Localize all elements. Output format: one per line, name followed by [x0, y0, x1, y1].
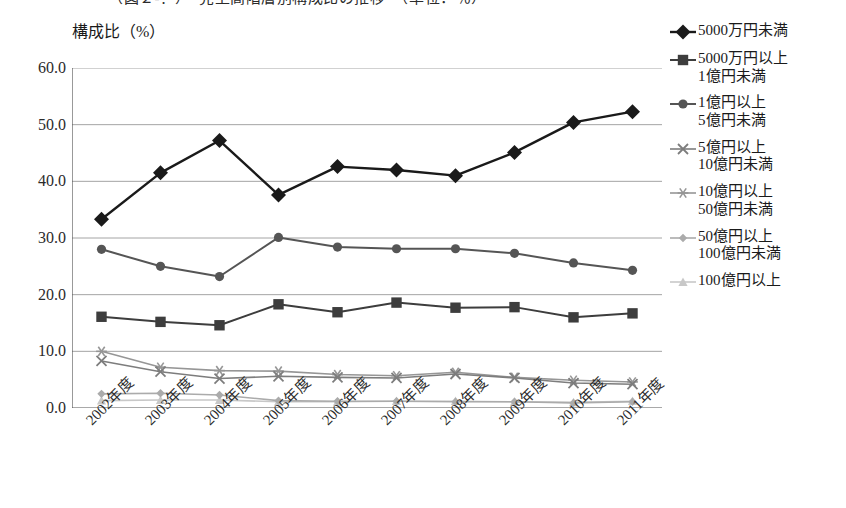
data-point-marker — [333, 242, 342, 251]
y-tick-label: 30.0 — [38, 229, 66, 247]
data-point-marker — [97, 245, 106, 254]
x-cross-icon — [668, 140, 698, 158]
data-point-marker — [214, 320, 224, 330]
legend-label: 5000万円未満 — [698, 22, 788, 40]
data-point-marker — [569, 258, 578, 267]
circle-icon — [668, 95, 698, 113]
x-axis-tick-labels: 2002年度2003年度2004年度2005年度2006年度2007年度2008… — [0, 408, 700, 508]
y-tick-label: 60.0 — [38, 59, 66, 77]
chart-page: （図２-？） 売上高階層別構成比の推移 （単位：％） 構成比（%） 60.050… — [0, 0, 846, 508]
data-point-marker — [566, 115, 581, 130]
plot-area — [72, 68, 662, 408]
data-point-marker — [96, 312, 106, 322]
y-tick-label: 50.0 — [38, 116, 66, 134]
legend-label: 100億円以上 — [698, 272, 781, 290]
legend-label: 5000万円以上 1億円未満 — [698, 50, 788, 85]
asterisk-icon — [668, 184, 698, 202]
chart-svg — [72, 68, 662, 408]
data-point-marker — [628, 266, 637, 275]
diamond-icon — [668, 23, 698, 41]
y-tick-label: 20.0 — [38, 286, 66, 304]
legend-item[interactable]: 1億円以上 5億円未満 — [668, 94, 846, 129]
data-point-marker — [679, 233, 687, 241]
data-point-marker — [155, 317, 165, 327]
series-2 — [96, 297, 637, 330]
chart-legend: 5000万円未満5000万円以上 1億円未満1億円以上 5億円未満5億円以上 1… — [668, 22, 846, 300]
data-point-marker — [568, 312, 578, 322]
data-point-marker — [451, 244, 460, 253]
legend-item[interactable]: 50億円以上 100億円未満 — [668, 228, 846, 263]
data-point-marker — [156, 262, 165, 271]
series-line — [102, 112, 633, 220]
data-point-marker — [389, 163, 404, 178]
legend-item[interactable]: 5000万円以上 1億円未満 — [668, 50, 846, 85]
legend-label: 5億円以上 10億円未満 — [698, 139, 773, 174]
y-axis-unit-label: 構成比（%） — [72, 18, 165, 42]
legend-label: 10億円以上 50億円未満 — [698, 183, 773, 218]
series-3 — [97, 233, 637, 281]
legend-item[interactable]: 100億円以上 — [668, 272, 846, 291]
data-point-marker — [96, 347, 107, 356]
data-point-marker — [678, 100, 687, 109]
data-point-marker — [625, 104, 640, 119]
data-point-marker — [330, 159, 345, 174]
legend-item[interactable]: 5億円以上 10億円未満 — [668, 139, 846, 174]
triangle-icon — [668, 273, 698, 291]
data-point-marker — [676, 25, 691, 40]
data-point-marker — [215, 272, 224, 281]
data-point-marker — [273, 299, 283, 309]
series-line — [102, 237, 633, 276]
data-point-marker — [450, 303, 460, 313]
data-point-marker — [627, 308, 637, 318]
series-1 — [94, 104, 640, 227]
chart-title-text: （図２-？） 売上高階層別構成比の推移 （単位：％） — [108, 0, 487, 7]
legend-label: 50億円以上 100億円未満 — [698, 228, 781, 263]
data-point-marker — [678, 189, 689, 198]
series-line — [102, 303, 633, 326]
y-tick-label: 10.0 — [38, 342, 66, 360]
chart-title-cropped: （図２-？） 売上高階層別構成比の推移 （単位：％） — [0, 0, 846, 12]
legend-item[interactable]: 5000万円未満 — [668, 22, 846, 41]
data-point-marker — [510, 249, 519, 258]
data-point-marker — [273, 367, 284, 376]
data-point-marker — [274, 233, 283, 242]
data-point-marker — [507, 145, 522, 160]
data-point-marker — [509, 302, 519, 312]
data-point-marker — [392, 244, 401, 253]
data-point-marker — [391, 297, 401, 307]
y-tick-label: 40.0 — [38, 172, 66, 190]
square-icon — [668, 51, 698, 69]
legend-item[interactable]: 10億円以上 50億円未満 — [668, 183, 846, 218]
y-axis-tick-labels: 60.050.040.030.020.010.00.0 — [0, 68, 66, 408]
data-point-marker — [332, 307, 342, 317]
legend-label: 1億円以上 5億円未満 — [698, 94, 766, 129]
data-point-marker — [678, 55, 688, 65]
small-diamond-icon — [668, 229, 698, 247]
